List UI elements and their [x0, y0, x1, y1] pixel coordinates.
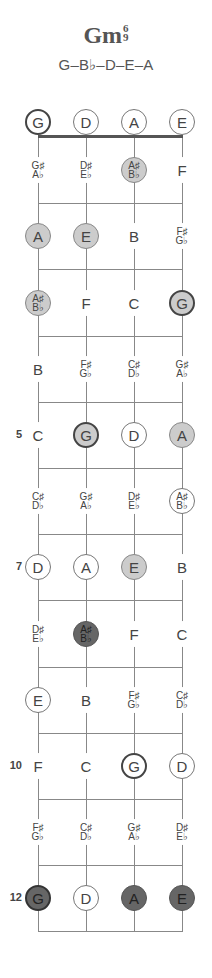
note-label: C	[129, 295, 140, 312]
fret-note-4-1: B	[25, 356, 51, 382]
fret-line-9	[38, 733, 183, 734]
fret-note-3-2: F	[73, 290, 99, 316]
note-label: A	[33, 228, 43, 245]
note-flat-label: B♭	[128, 170, 140, 179]
note-label: A	[129, 114, 139, 131]
fret-line-2	[38, 269, 183, 270]
note-label: E	[177, 890, 187, 907]
fret-note-10-1: F	[25, 753, 51, 779]
fret-note-7-4: B	[169, 554, 195, 580]
fret-note-7-1: D	[25, 554, 51, 580]
note-flat-label: A♭	[128, 832, 140, 841]
note-label: G	[32, 890, 44, 907]
fret-note-3-1: A♯B♭	[25, 290, 51, 316]
fret-note-5-2: G	[73, 422, 99, 448]
fret-note-4-3: C♯D♭	[121, 356, 147, 382]
note-label: C	[81, 758, 92, 775]
note-flat-label: D♭	[32, 501, 44, 510]
note-label: D	[81, 114, 92, 131]
note-label: E	[129, 559, 139, 576]
fret-note-9-4: C♯D♭	[169, 687, 195, 713]
fret-note-5-3: D	[121, 422, 147, 448]
fret-number-label: 5	[8, 428, 22, 440]
fretboard-diagram: GDAEG♯A♭D♯E♭A♯B♭FAEBF♯G♭A♯B♭FCGBF♯G♭C♯D♭…	[0, 0, 212, 978]
note-label: E	[81, 228, 91, 245]
note-label: E	[177, 114, 187, 131]
note-label: D	[33, 559, 44, 576]
fret-note-8-2: A♯B♭	[73, 621, 99, 647]
fret-number-label: 12	[8, 891, 22, 903]
note-label: C	[177, 626, 188, 643]
note-label: F	[129, 626, 138, 643]
note-label: C	[33, 427, 44, 444]
fret-line-3	[38, 336, 183, 337]
fret-number-label: 7	[8, 560, 22, 572]
note-flat-label: G♭	[128, 700, 141, 709]
fret-line-4	[38, 402, 183, 403]
note-label: G	[176, 295, 188, 312]
fret-note-3-3: C	[121, 290, 147, 316]
fret-line-12	[38, 931, 183, 932]
fret-note-11-3: G♯A♭	[121, 819, 147, 845]
fret-note-12-3: A	[121, 885, 147, 911]
fret-note-9-3: F♯G♭	[121, 687, 147, 713]
note-label: B	[177, 559, 187, 576]
fret-note-2-3: B	[121, 223, 147, 249]
note-label: B	[129, 228, 139, 245]
note-label: D	[177, 758, 188, 775]
open-string-note-0-1: G	[25, 109, 51, 135]
note-flat-label: G♭	[32, 832, 45, 841]
fret-line-11	[38, 865, 183, 866]
fret-note-1-1: G♯A♭	[25, 157, 51, 183]
note-label: A	[81, 559, 91, 576]
fret-number-label: 10	[8, 759, 22, 771]
fret-note-3-4: G	[169, 290, 195, 316]
fret-note-5-4: A	[169, 422, 195, 448]
note-label: F	[81, 295, 90, 312]
fret-note-8-3: F	[121, 621, 147, 647]
fret-note-6-1: C♯D♭	[25, 488, 51, 514]
fret-note-10-3: G	[121, 753, 147, 779]
note-label: G	[128, 758, 140, 775]
fret-note-2-2: E	[73, 223, 99, 249]
fret-note-10-2: C	[73, 753, 99, 779]
fret-note-8-1: D♯E♭	[25, 621, 51, 647]
note-label: E	[33, 692, 43, 709]
fret-line-5	[38, 468, 183, 469]
note-flat-label: G♭	[176, 236, 189, 245]
note-flat-label: A♭	[176, 369, 188, 378]
fret-note-9-1: E	[25, 687, 51, 713]
fret-note-9-2: B	[73, 687, 99, 713]
fret-note-2-1: A	[25, 223, 51, 249]
note-label: A	[129, 890, 139, 907]
note-label: F	[177, 162, 186, 179]
fret-note-5-1: C	[25, 422, 51, 448]
fret-note-4-2: F♯G♭	[73, 356, 99, 382]
note-label: B	[33, 361, 43, 378]
fret-note-10-4: D	[169, 753, 195, 779]
note-label: G	[32, 114, 44, 131]
open-string-note-0-2: D	[73, 109, 99, 135]
note-flat-label: D♭	[128, 369, 140, 378]
fret-note-11-4: D♯E♭	[169, 819, 195, 845]
fret-line-10	[38, 799, 183, 800]
fret-note-7-2: A	[73, 554, 99, 580]
note-label: A	[177, 427, 187, 444]
fret-note-6-4: A♯B♭	[169, 488, 195, 514]
note-flat-label: D♭	[80, 832, 92, 841]
note-label: G	[80, 427, 92, 444]
fret-note-12-2: D	[73, 885, 99, 911]
open-string-note-0-3: A	[121, 109, 147, 135]
fret-note-2-4: F♯G♭	[169, 223, 195, 249]
fret-note-6-3: D♯E♭	[121, 488, 147, 514]
fret-line-6	[38, 534, 183, 535]
note-flat-label: E♭	[80, 170, 92, 179]
note-label: D	[81, 890, 92, 907]
note-label: D	[129, 427, 140, 444]
fret-note-8-4: C	[169, 621, 195, 647]
fret-note-1-3: A♯B♭	[121, 157, 147, 183]
note-flat-label: A♭	[80, 501, 92, 510]
note-flat-label: B♭	[176, 501, 188, 510]
note-flat-label: G♭	[80, 369, 93, 378]
fret-note-1-2: D♯E♭	[73, 157, 99, 183]
